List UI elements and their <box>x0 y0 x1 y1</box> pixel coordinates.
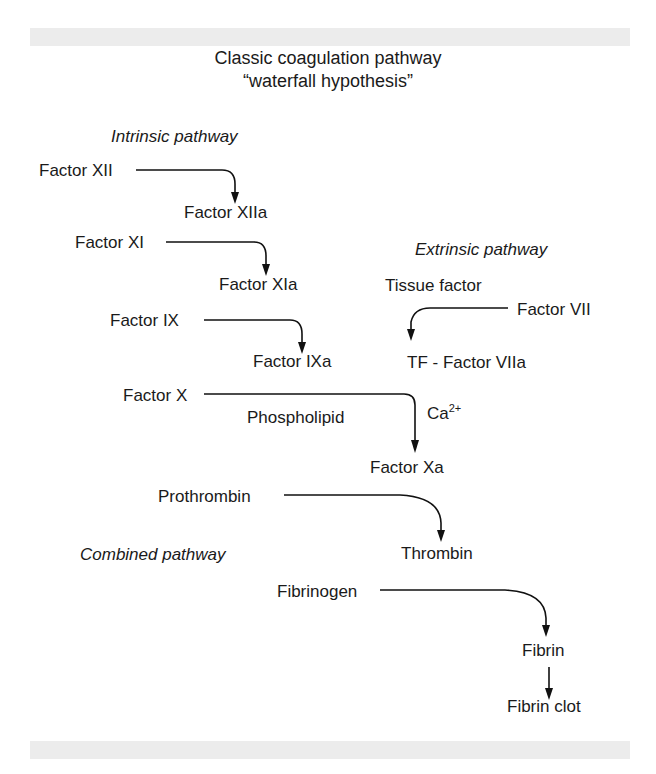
arrow-prothrombin-to-thrombin <box>284 495 441 532</box>
arrow-x-to-xa <box>204 394 415 440</box>
arrowhead-fibrin-icon <box>542 625 550 637</box>
arrowhead-xia-icon <box>262 264 270 276</box>
arrowhead-ixa-icon <box>298 342 306 354</box>
arrowhead-xa-icon <box>411 440 419 453</box>
arrowhead-xiia-icon <box>231 192 239 204</box>
arrow-xii-to-xiia <box>136 170 235 194</box>
arrowhead-clot-icon <box>545 688 553 700</box>
arrow-fibrinogen-to-fibrin <box>380 590 546 627</box>
pathway-arrows <box>0 0 656 774</box>
arrowhead-thrombin-icon <box>437 530 445 542</box>
arrowhead-tf-viia-icon <box>407 329 415 341</box>
arrow-ix-to-ixa <box>204 320 302 344</box>
arrow-vii-to-tf-viia <box>411 308 508 331</box>
arrow-xi-to-xia <box>166 242 266 266</box>
